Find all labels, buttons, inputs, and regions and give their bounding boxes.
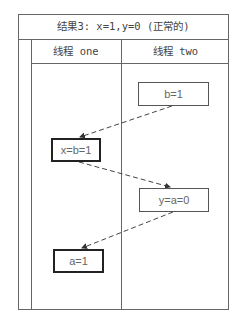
dependency-arrows [0, 0, 244, 329]
node-a1: a=1 [53, 249, 104, 273]
node-xb1: x=b=1 [51, 138, 101, 162]
node-b1: b=1 [138, 82, 209, 106]
node-ya0: y=a=0 [139, 188, 209, 212]
arrow-ya0-to-a1 [82, 212, 173, 248]
arrow-xb1-to-ya0 [79, 162, 170, 187]
arrow-b1-to-xb1 [80, 106, 172, 137]
